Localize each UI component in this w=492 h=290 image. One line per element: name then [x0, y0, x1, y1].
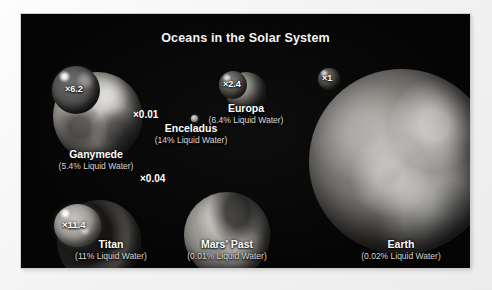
enceladus-caption: Enceladus (14% Liquid Water) [116, 122, 266, 145]
europa-name: Europa [171, 102, 321, 114]
ganymede-multiplier-label: ×6.2 [65, 84, 83, 94]
earth-planet-sphere [309, 69, 470, 254]
earth-caption: Earth (0.02% Liquid Water) [326, 238, 470, 261]
europa-percent: (6.4% Liquid Water) [171, 115, 321, 125]
mars-multiplier-label: ×0.04 [140, 173, 165, 184]
mars-name: Mars' Past [152, 238, 302, 250]
earth-multiplier-label: ×1 [322, 73, 332, 83]
ganymede-name: Ganymede [21, 148, 171, 160]
figure-title: Oceans in the Solar System [21, 31, 470, 45]
page-background: Oceans in the Solar System ×6.2 Ganymede… [0, 0, 492, 290]
europa-caption: Europa (6.4% Liquid Water) [171, 102, 321, 125]
mars-caption: Mars' Past (0.01% Liquid Water) [152, 238, 302, 261]
mars-percent: (0.01% Liquid Water) [152, 251, 302, 261]
earth-name: Earth [326, 238, 470, 250]
earth-percent: (0.02% Liquid Water) [326, 251, 470, 261]
ganymede-caption: Ganymede (5.4% Liquid Water) [21, 148, 171, 171]
enceladus-multiplier-label: ×0.01 [133, 109, 158, 120]
titan-multiplier-label: ×11.4 [62, 219, 86, 230]
europa-multiplier-label: ×2.4 [223, 79, 241, 89]
figure-panel: Oceans in the Solar System ×6.2 Ganymede… [21, 14, 470, 268]
ganymede-percent: (5.4% Liquid Water) [21, 161, 171, 171]
enceladus-percent: (14% Liquid Water) [116, 135, 266, 145]
